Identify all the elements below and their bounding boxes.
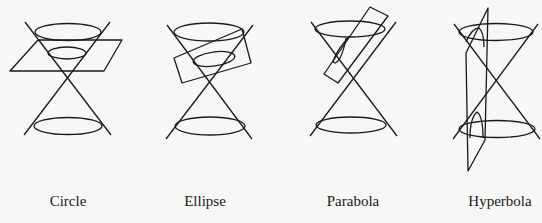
hyperbola-figure: [453, 8, 540, 171]
cutting-plane: [10, 40, 122, 71]
cone-generator-line: [311, 22, 397, 136]
cone-bottom-rim: [316, 117, 386, 133]
ellipse-figure: [166, 23, 253, 139]
conic-sections-diagram: Circle Ellipse Parabola Hyperbola: [0, 0, 542, 223]
conic-sections-drawing: [0, 0, 542, 223]
cutting-plane: [466, 8, 488, 171]
label-hyperbola: Hyperbola: [468, 193, 531, 210]
cone-top-rim: [459, 24, 533, 41]
circle-figure: [10, 22, 122, 135]
hyperbola-lower-branch: [470, 112, 483, 138]
label-ellipse: Ellipse: [184, 193, 226, 210]
label-circle: Circle: [50, 193, 87, 210]
parabola-figure: [310, 7, 397, 136]
label-parabola: Parabola: [327, 193, 379, 210]
cone-bottom-rim: [34, 118, 102, 135]
ellipse-section: [192, 49, 236, 69]
cone-generator-line: [310, 22, 396, 136]
cone-bottom-rim: [175, 117, 245, 135]
cone-top-rim: [35, 24, 101, 41]
circle-section: [48, 47, 86, 59]
